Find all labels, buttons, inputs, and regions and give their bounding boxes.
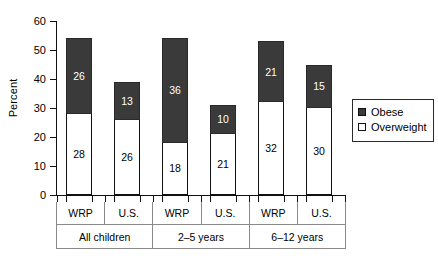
chart-legend: Obese Overweight — [352, 99, 434, 142]
bar-segment-overweight[interactable]: 28 — [66, 114, 92, 195]
bar-value-obese: 10 — [217, 114, 229, 125]
x-label-wrp-all-children: WRP — [57, 202, 105, 224]
bar-value-obese: 13 — [121, 96, 133, 107]
x-label-wrp-6-12-years: WRP — [250, 202, 298, 224]
x-tick — [92, 195, 93, 202]
x-group-label-all-children: All children — [57, 225, 153, 248]
legend-item-overweight[interactable]: Overweight — [358, 121, 428, 133]
filled-square-icon — [358, 108, 366, 116]
x-tick — [210, 195, 211, 202]
x-tick — [57, 195, 58, 202]
y-tick-label-50: 50 — [6, 44, 46, 56]
y-axis-line — [56, 21, 57, 196]
y-axis-title: Percent — [7, 58, 19, 138]
plot-area: 60 50 40 30 20 10 0 26 28 — [57, 21, 345, 195]
x-tick — [284, 195, 285, 202]
legend-label-obese: Obese — [371, 106, 403, 118]
bar-us-6-12-years[interactable]: 15 30 — [306, 65, 332, 196]
y-tick-20: 20 — [50, 137, 56, 138]
x-tick — [66, 195, 67, 202]
bar-segment-obese[interactable]: 26 — [66, 38, 92, 113]
bar-segment-obese[interactable]: 10 — [210, 105, 236, 134]
bar-value-overweight: 26 — [121, 152, 133, 163]
y-tick-label-40: 40 — [6, 73, 46, 85]
series-label-row: WRP U.S. WRP U.S. WRP U.S. — [57, 202, 345, 225]
bar-value-obese: 26 — [73, 71, 85, 82]
x-tick — [249, 195, 250, 202]
y-tick-50: 50 — [50, 50, 56, 51]
bar-segment-obese[interactable]: 15 — [306, 65, 332, 109]
x-tick — [201, 195, 202, 202]
y-tick-label-30: 30 — [6, 102, 46, 114]
x-tick — [188, 195, 189, 202]
y-tick-label-20: 20 — [6, 131, 46, 143]
legend-label-overweight: Overweight — [371, 121, 427, 133]
y-tick-10: 10 — [50, 166, 56, 167]
x-tick — [140, 195, 141, 202]
x-tick — [306, 195, 307, 202]
bar-value-overweight: 32 — [265, 143, 277, 154]
bar-segment-overweight[interactable]: 30 — [306, 108, 332, 195]
bar-wrp-2-5-years[interactable]: 36 18 — [162, 38, 188, 195]
bar-us-2-5-years[interactable]: 10 21 — [210, 105, 236, 195]
x-tick — [236, 195, 237, 202]
bar-value-overweight: 18 — [169, 163, 181, 174]
x-tick — [153, 195, 154, 202]
x-tick — [297, 195, 298, 202]
x-label-us-2-5-years: U.S. — [202, 202, 250, 224]
y-tick-0: 0 — [50, 195, 56, 196]
y-tick-60: 60 — [50, 21, 56, 22]
bar-segment-obese[interactable]: 36 — [162, 38, 188, 142]
bar-value-overweight: 28 — [73, 149, 85, 160]
bar-segment-overweight[interactable]: 26 — [114, 120, 140, 195]
x-tick — [345, 195, 346, 202]
bar-value-obese: 36 — [169, 85, 181, 96]
empty-square-icon — [358, 123, 366, 131]
x-group-label-2-5-years: 2–5 years — [153, 225, 249, 248]
x-label-wrp-2-5-years: WRP — [153, 202, 201, 224]
stacked-bar-chart: Percent 60 50 40 30 20 10 0 26 — [0, 0, 438, 264]
bar-value-obese: 21 — [265, 67, 277, 78]
x-tick — [332, 195, 333, 202]
y-tick-label-10: 10 — [6, 160, 46, 172]
y-tick-30: 30 — [50, 108, 56, 109]
bar-wrp-6-12-years[interactable]: 21 32 — [258, 41, 284, 195]
x-tick — [162, 195, 163, 202]
y-tick-label-0: 0 — [6, 189, 46, 201]
x-label-us-all-children: U.S. — [105, 202, 153, 224]
x-label-us-6-12-years: U.S. — [298, 202, 345, 224]
bar-value-overweight: 21 — [217, 159, 229, 170]
legend-item-obese[interactable]: Obese — [358, 106, 428, 118]
bar-value-obese: 15 — [313, 81, 325, 92]
x-tick — [105, 195, 106, 202]
y-tick-label-60: 60 — [6, 15, 46, 27]
bar-wrp-all-children[interactable]: 26 28 — [66, 38, 92, 195]
group-label-row: All children 2–5 years 6–12 years — [57, 225, 345, 248]
x-group-label-6-12-years: 6–12 years — [250, 225, 345, 248]
bar-segment-overweight[interactable]: 21 — [210, 134, 236, 195]
bar-segment-obese[interactable]: 21 — [258, 41, 284, 102]
x-tick — [114, 195, 115, 202]
bar-segment-obese[interactable]: 13 — [114, 82, 140, 120]
x-tick — [258, 195, 259, 202]
bar-segment-overweight[interactable]: 32 — [258, 102, 284, 195]
bar-value-overweight: 30 — [313, 146, 325, 157]
y-tick-40: 40 — [50, 79, 56, 80]
bar-segment-overweight[interactable]: 18 — [162, 143, 188, 195]
bar-us-all-children[interactable]: 13 26 — [114, 82, 140, 195]
x-axis-label-table: WRP U.S. WRP U.S. WRP U.S. All children … — [56, 202, 346, 249]
